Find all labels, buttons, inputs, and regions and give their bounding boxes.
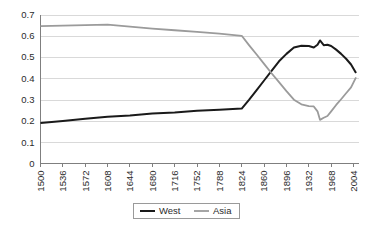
- x-tick-label: 1860: [258, 171, 269, 192]
- x-tick-label: 1968: [326, 171, 337, 192]
- legend-label-west: West: [159, 205, 181, 216]
- y-tick-label: 0.2: [21, 115, 34, 126]
- line-chart: 00.10.20.30.40.50.60.7 15001536157216081…: [0, 0, 373, 229]
- chart-background: [0, 0, 373, 229]
- y-tick-label: 0.4: [21, 73, 34, 84]
- y-tick-label: 0.3: [21, 94, 34, 105]
- legend-label-asia: Asia: [213, 205, 232, 216]
- y-tick-label: 0: [29, 158, 34, 169]
- x-tick-label: 1608: [102, 171, 113, 192]
- x-tick-label: 1716: [169, 171, 180, 192]
- x-tick-label: 1644: [124, 171, 135, 192]
- x-tick-label: 1824: [236, 171, 247, 192]
- x-tick-label: 1572: [80, 171, 91, 192]
- y-tick-label: 0.5: [21, 51, 34, 62]
- x-tick-label: 1896: [281, 171, 292, 192]
- x-tick-label: 1680: [147, 171, 158, 192]
- x-tick-label: 1932: [303, 171, 314, 192]
- x-tick-label: 2004: [348, 171, 359, 192]
- x-tick-label: 1500: [35, 171, 46, 192]
- y-tick-label: 0.1: [21, 137, 34, 148]
- chart-canvas: 00.10.20.30.40.50.60.7 15001536157216081…: [0, 0, 373, 229]
- y-tick-label: 0.6: [21, 30, 34, 41]
- x-tick-label: 1788: [214, 171, 225, 192]
- y-tick-label: 0.7: [21, 9, 34, 20]
- chart-legend: WestAsia: [134, 204, 240, 219]
- x-tick-label: 1752: [191, 171, 202, 192]
- x-tick-label: 1536: [57, 171, 68, 192]
